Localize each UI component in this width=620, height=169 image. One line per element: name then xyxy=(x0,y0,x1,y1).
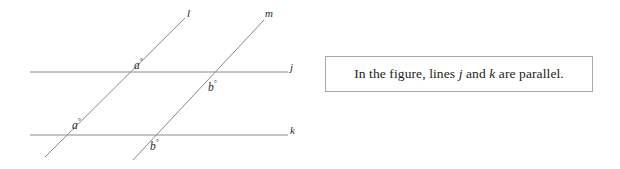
geometry-figure: l m j k a° a° b° b° xyxy=(0,0,310,169)
angle-label-a-lower: a° xyxy=(72,120,81,132)
caption-text-between: and xyxy=(462,66,489,81)
caption-box: In the figure, lines j and k are paralle… xyxy=(325,56,593,92)
angle-label-a-upper: a° xyxy=(134,60,143,72)
angle-label-b-upper: b° xyxy=(208,82,217,94)
screenshot-root: l m j k a° a° b° b° In the figure, lines… xyxy=(0,0,620,169)
line-l xyxy=(45,18,185,157)
angle-a-lower-degree-sign: ° xyxy=(78,117,81,126)
angle-b-lower-degree-sign: ° xyxy=(156,138,159,147)
line-l-label: l xyxy=(187,8,190,19)
line-m-label: m xyxy=(265,8,273,19)
angle-a-upper-degree-sign: ° xyxy=(140,57,143,66)
line-m xyxy=(133,20,264,160)
line-j-label: j xyxy=(290,62,293,73)
caption-text-before-j: In the figure, lines xyxy=(354,66,458,81)
caption-text: In the figure, lines j and k are paralle… xyxy=(354,66,564,82)
angle-b-upper-degree-sign: ° xyxy=(214,79,217,88)
caption-text-after-k: are parallel. xyxy=(495,66,563,81)
line-k-label: k xyxy=(290,125,295,136)
angle-label-b-lower: b° xyxy=(150,141,159,153)
